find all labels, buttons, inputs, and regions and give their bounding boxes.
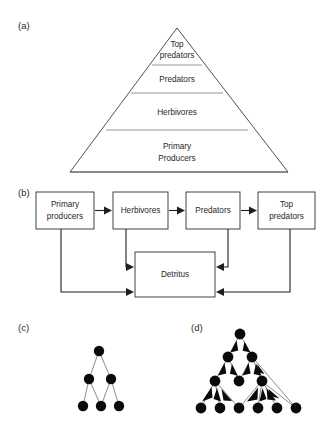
flow-box-top-predators-line2: predators (269, 212, 304, 221)
web-node (210, 376, 221, 387)
web-node (235, 329, 246, 340)
web-node (96, 401, 106, 411)
web-node (257, 376, 268, 387)
web-node (94, 346, 104, 356)
web-node (234, 403, 245, 414)
panel-label-d: (d) (191, 322, 203, 333)
web-node (253, 403, 264, 414)
web-node (272, 403, 283, 414)
web-node (215, 403, 226, 414)
pyramid-tier-top-predators-line2: predators (160, 51, 195, 60)
panel-label-b: (b) (18, 187, 30, 198)
panel-label-a: (a) (18, 20, 30, 31)
web-node (247, 352, 258, 363)
web-node (291, 403, 302, 414)
pyramid-tier-primary-producers-line2: Producers (158, 154, 195, 163)
web-node (84, 374, 94, 384)
pyramid-tier-primary-producers-line1: Primary (163, 142, 192, 151)
web-node (78, 401, 88, 411)
pyramid-tier-top-predators-line1: Top (170, 40, 184, 49)
panel-label-c: (c) (18, 322, 29, 333)
flow-box-top-predators-line1: Top (280, 200, 294, 209)
food-web-figure: (a) Top predators Predators Herbivores P… (0, 0, 325, 431)
flow-box-primary-producers (36, 192, 94, 229)
web-node (196, 403, 207, 414)
pyramid-tier-herbivores: Herbivores (157, 108, 197, 117)
web-node (223, 352, 234, 363)
flow-box-primary-producers-line1: Primary (51, 200, 80, 209)
flow-box-herbivores-label: Herbivores (121, 206, 161, 215)
web-node (234, 376, 245, 387)
flow-box-top-predators (258, 192, 315, 229)
flow-box-predators-label: Predators (195, 206, 231, 215)
web-node (106, 374, 116, 384)
pyramid-tier-predators: Predators (159, 75, 195, 84)
web-node (114, 401, 124, 411)
flow-box-detritus-label: Detritus (161, 270, 189, 279)
flow-box-primary-producers-line2: producers (47, 212, 83, 221)
